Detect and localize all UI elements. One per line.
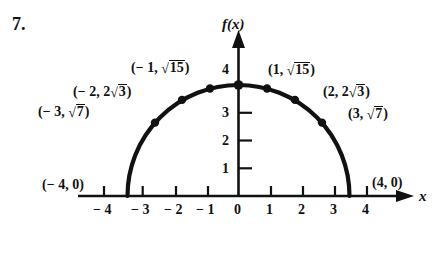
x-axis-arrowhead [396, 190, 414, 202]
x-tick-label-zero: 0 [234, 202, 241, 218]
point-label-neg2: (− 2, 2√3) [73, 84, 132, 99]
x-axis-label: x [419, 188, 427, 205]
y-tick-label-3: 3 [222, 105, 229, 121]
point-label-neg1: (− 1, √15) [131, 60, 190, 75]
point-marker-neg2 [178, 96, 186, 104]
point-label-neg3: (− 3, √7) [38, 104, 90, 119]
y-tick-label-4: 4 [222, 62, 229, 78]
point-marker-neg3 [151, 118, 159, 126]
point-label-neg4: (− 4, 0) [42, 178, 84, 192]
x-tick-label-4: 4 [362, 202, 369, 218]
graph-svg [0, 0, 442, 257]
y-tick-label-2: 2 [222, 133, 229, 149]
point-label-pos3: (3, √7) [348, 106, 388, 121]
x-tick-label-neg3: − 3 [131, 202, 149, 218]
point-marker-zero [234, 80, 244, 90]
x-tick-label-neg4: − 4 [93, 202, 111, 218]
point-marker-pos3 [318, 118, 326, 126]
x-tick-label-1: 1 [266, 202, 273, 218]
point-label-pos2: (2, 2√3) [323, 84, 370, 99]
figure-canvas: 7. [0, 0, 442, 257]
x-tick-label-neg1: − 1 [196, 202, 214, 218]
point-label-pos1: (1, √15) [268, 62, 315, 77]
x-tick-marks [104, 186, 367, 196]
point-label-pos4: (4, 0) [372, 176, 402, 190]
point-marker-neg1 [206, 84, 214, 92]
point-marker-pos1 [263, 84, 271, 92]
y-tick-label-1: 1 [222, 161, 229, 177]
x-tick-label-2: 2 [298, 202, 305, 218]
y-axis-label: f(x) [222, 16, 245, 33]
x-tick-label-neg2: − 2 [164, 202, 182, 218]
y-tick-marks [239, 113, 253, 169]
x-tick-label-3: 3 [330, 202, 337, 218]
point-marker-pos2 [291, 96, 299, 104]
